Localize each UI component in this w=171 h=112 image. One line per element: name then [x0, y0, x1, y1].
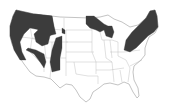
us-map — [0, 0, 171, 112]
